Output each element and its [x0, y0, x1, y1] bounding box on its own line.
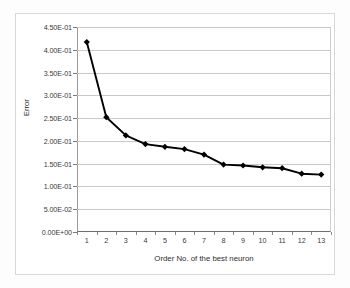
gridline — [77, 27, 331, 28]
y-axis-tick-label: 4.00E-01 — [10, 46, 72, 55]
x-axis-tick-mark — [253, 232, 254, 235]
y-axis-tick-label: 4.50E-01 — [10, 23, 72, 32]
x-axis-tick-label: 9 — [233, 236, 253, 245]
x-axis-tick-mark — [272, 232, 273, 235]
x-axis-tick-mark — [155, 232, 156, 235]
x-axis-tick-label: 11 — [272, 236, 292, 245]
gridline — [77, 164, 331, 165]
x-axis-tick-mark — [233, 232, 234, 235]
y-axis-tick-label: 2.00E-01 — [10, 137, 72, 146]
x-axis-tick-label: 12 — [292, 236, 312, 245]
x-axis-tick-mark — [116, 232, 117, 235]
x-axis-tick-label: 13 — [311, 236, 331, 245]
x-axis-tick-mark — [292, 232, 293, 235]
x-axis-tick-mark — [194, 232, 195, 235]
gridline — [77, 95, 331, 96]
x-axis-tick-label: 6 — [174, 236, 194, 245]
x-axis-tick-mark — [77, 232, 78, 235]
plot-area — [77, 27, 331, 232]
gridline — [77, 50, 331, 51]
gridline — [77, 141, 331, 142]
x-axis-tick-mark — [136, 232, 137, 235]
x-axis-tick-label: 2 — [96, 236, 116, 245]
gridline — [77, 186, 331, 187]
y-axis-tick-label: 1.00E-01 — [10, 182, 72, 191]
x-axis-tick-label: 1 — [77, 236, 97, 245]
gridline — [77, 118, 331, 119]
x-axis-title: Order No. of the best neuron — [77, 254, 331, 263]
x-axis-tick-label: 3 — [116, 236, 136, 245]
y-axis-tick-label: 1.50E-01 — [10, 160, 72, 169]
x-axis-tick-mark — [331, 232, 332, 235]
x-axis-tick-label: 7 — [194, 236, 214, 245]
x-axis-tick-mark — [97, 232, 98, 235]
x-axis-tick-mark — [311, 232, 312, 235]
gridline — [77, 209, 331, 210]
y-axis-tick-label: 3.50E-01 — [10, 69, 72, 78]
gridline — [77, 73, 331, 74]
x-axis-tick-mark — [175, 232, 176, 235]
x-axis-tick-label: 10 — [253, 236, 273, 245]
y-axis-tick-label: 3.00E-01 — [10, 91, 72, 100]
chart-figure: 0.00E+005.00E-021.00E-011.50E-012.00E-01… — [0, 0, 350, 288]
y-axis-tick-label: 0.00E+00 — [10, 228, 72, 237]
x-axis-tick-label: 4 — [135, 236, 155, 245]
x-axis-tick-mark — [214, 232, 215, 235]
x-axis-tick-label: 5 — [155, 236, 175, 245]
y-axis-tick-label: 5.00E-02 — [10, 205, 72, 214]
y-axis-tick-label: 2.50E-01 — [10, 114, 72, 123]
x-axis-tick-label: 8 — [214, 236, 234, 245]
y-axis-title: Error — [22, 99, 31, 116]
